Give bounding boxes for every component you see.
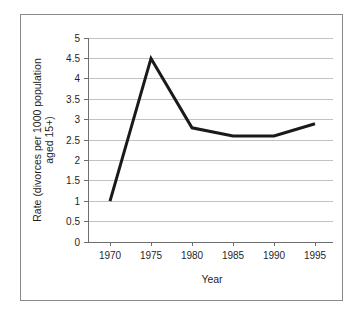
x-axis-title: Year (201, 273, 223, 285)
x-tick-marks (110, 242, 315, 246)
x-tick-label-1975: 1975 (140, 250, 163, 261)
y-tick-label-3: 3 (74, 114, 80, 125)
y-tick-label-1.5: 1.5 (66, 175, 80, 186)
x-tick-label-1980: 1980 (181, 250, 204, 261)
y-tick-labels: 5 4.5 4 3.5 3 2.5 2 1.5 1 0.5 0 (66, 33, 80, 248)
y-tick-label-1: 1 (74, 196, 80, 207)
x-tick-label-1985: 1985 (222, 250, 245, 261)
chart-canvas: 5 4.5 4 3.5 3 2.5 2 1.5 1 0.5 0 1970 197… (0, 0, 359, 318)
x-tick-label-1970: 1970 (99, 250, 122, 261)
y-tick-label-2: 2 (74, 155, 80, 166)
x-tick-labels: 1970 1975 1980 1985 1990 1995 (99, 250, 327, 261)
chart-figure: 5 4.5 4 3.5 3 2.5 2 1.5 1 0.5 0 1970 197… (0, 0, 359, 318)
x-tick-label-1995: 1995 (304, 250, 327, 261)
x-tick-label-1990: 1990 (263, 250, 286, 261)
y-axis-title-line2: aged 15+) (43, 116, 55, 164)
y-tick-label-0.5: 0.5 (66, 216, 80, 227)
y-tick-label-3.5: 3.5 (66, 94, 80, 105)
y-axis-title-line1: Rate (divorces per 1000 population (31, 58, 43, 222)
y-tick-label-4.5: 4.5 (66, 53, 80, 64)
y-tick-label-4: 4 (74, 73, 80, 84)
divorce-rate-line (110, 58, 315, 201)
y-tick-marks (84, 38, 88, 242)
y-tick-label-2.5: 2.5 (66, 135, 80, 146)
y-tick-label-5: 5 (74, 33, 80, 44)
y-tick-label-0: 0 (74, 237, 80, 248)
